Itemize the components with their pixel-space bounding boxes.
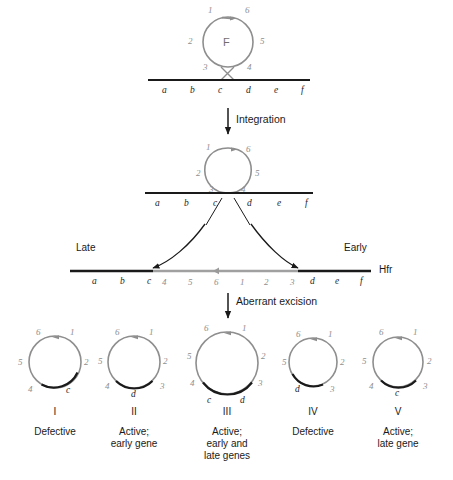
product-II-segment-3: 3 (160, 382, 165, 391)
product-IV-segment-2: 2 (340, 358, 345, 367)
hfr-transfer-direction-arrow (213, 268, 219, 275)
product-IV-roman: IV (268, 406, 358, 417)
top-chromosome-gene-e: e (274, 86, 278, 96)
product-V-segment-4: 4 (369, 382, 374, 391)
excision-curve-left (153, 224, 205, 268)
hfr-f-segment-3: 3 (290, 278, 295, 287)
product-II-segment-2: 2 (163, 357, 168, 366)
product-III-caption: Active; early and late genes (179, 426, 275, 462)
f-plasmid-center-label: F (223, 37, 230, 48)
f-factor-integration-diagram: 1 6 5 4 3 2 F a b c d e f Integration 1 … (0, 0, 453, 480)
product-circle-II (108, 335, 160, 388)
product-I-chromosome-arc (42, 373, 78, 388)
product-III-roman: III (182, 406, 272, 417)
hfr-gene-e: e (335, 277, 339, 287)
free-f-plasmid (148, 17, 310, 80)
integrated-loop-segment-1: 1 (206, 143, 211, 152)
product-II-roman: II (89, 406, 179, 417)
product-IV-segment-3: 3 (330, 385, 335, 394)
product-III-segment-2: 2 (261, 352, 266, 361)
integrated-loop-segment-2: 2 (196, 169, 201, 178)
product-II-segment-4: 4 (105, 382, 110, 391)
product-III-chromosome-arc (203, 383, 252, 395)
product-II-ring (108, 336, 160, 388)
product-I-roman: I (10, 406, 100, 417)
product-II-caption: Active; early gene (86, 426, 182, 450)
integrated-loop-segment-5: 5 (255, 169, 260, 178)
hfr-f-segment-6: 6 (214, 278, 219, 287)
integrated-f-loop (145, 148, 313, 225)
f-plasmid-segment-4: 4 (247, 63, 252, 72)
integrated-loop-segment-4: 4 (241, 185, 246, 194)
product-V-chromosome-arc (381, 381, 416, 388)
product-IV-segment-5: 5 (282, 358, 287, 367)
integrated-loop-segment-6: 6 (246, 145, 251, 154)
product-IV-gene-d: d (295, 385, 300, 395)
hfr-gene-f: f (360, 277, 363, 287)
hfr-f-segment-4: 4 (162, 278, 167, 287)
product-I-gene-c: c (66, 386, 70, 396)
f-plasmid-segment-6: 6 (245, 6, 250, 15)
product-V-segment-3: 3 (423, 382, 428, 391)
early-label: Early (344, 243, 367, 253)
product-V-roman: V (353, 406, 443, 417)
product-I-segment-1: 1 (70, 328, 75, 337)
hfr-gene-b: b (120, 277, 125, 287)
integration-step-label: Integration (236, 114, 286, 125)
excision-curve-right (251, 224, 298, 268)
integrated-gene-f: f (305, 199, 308, 209)
product-III-segment-6: 6 (204, 324, 209, 333)
f-plasmid-segment-2: 2 (188, 37, 193, 46)
product-III-segment-1: 1 (242, 324, 247, 333)
hfr-chromosome (70, 268, 371, 275)
product-V-gene-c: c (395, 389, 399, 399)
integrated-gene-e: e (277, 199, 281, 209)
product-III-gene-d: d (240, 396, 245, 406)
product-III-segment-4: 4 (190, 379, 195, 388)
product-circle-V (373, 336, 423, 387)
product-V-segment-2: 2 (427, 357, 432, 366)
hfr-f-segment-1: 1 (240, 278, 245, 287)
product-V-caption: Active; late gene (350, 426, 446, 450)
integrated-gene-c: c (213, 199, 217, 209)
top-chromosome-gene-b: b (190, 86, 195, 96)
product-II-segment-1: 1 (149, 328, 154, 337)
hfr-gene-a: a (92, 277, 97, 287)
aberrant-excision-step-label: Aberrant excision (236, 296, 317, 307)
product-II-segment-6: 6 (115, 328, 120, 337)
integrated-gene-b: b (184, 199, 189, 209)
product-I-segment-5: 5 (18, 358, 23, 367)
product-I-segment-2: 2 (84, 358, 89, 367)
integrated-gene-d: d (247, 199, 252, 209)
hfr-f-segment-5: 5 (188, 278, 193, 287)
top-chromosome-gene-d: d (246, 86, 251, 96)
top-chromosome-gene-f: f (301, 86, 304, 96)
hfr-f-segment-2: 2 (264, 278, 269, 287)
product-circle-III (196, 331, 258, 394)
hfr-gene-d: d (310, 277, 315, 287)
product-circle-I (29, 335, 81, 388)
hfr-label: Hfr (379, 265, 392, 275)
f-plasmid-segment-1: 1 (208, 6, 213, 15)
product-V-segment-1: 1 (413, 328, 418, 337)
crossover-x-icon (221, 67, 234, 80)
f-plasmid-segment-3: 3 (203, 63, 208, 72)
product-II-segment-5: 5 (98, 357, 103, 366)
f-plasmid-segment-5: 5 (260, 37, 265, 46)
product-V-segment-5: 5 (362, 357, 367, 366)
integrated-loop-segment-3: 3 (209, 185, 214, 194)
top-chromosome-gene-a: a (162, 86, 167, 96)
product-I-segment-6: 6 (36, 328, 41, 337)
product-III-segment-3: 3 (258, 379, 263, 388)
product-IV-segment-1: 1 (328, 330, 333, 339)
product-V-ring (373, 337, 423, 387)
product-IV-caption: Defective (265, 426, 361, 438)
product-IV-segment-6: 6 (296, 330, 301, 339)
top-chromosome-gene-c: c (218, 86, 222, 96)
product-III-gene-c: c (207, 396, 211, 406)
product-II-gene-d: d (131, 390, 136, 400)
product-III-segment-5: 5 (187, 352, 192, 361)
product-I-segment-4: 4 (28, 385, 33, 394)
late-label: Late (76, 243, 95, 253)
product-circle-IV (289, 337, 337, 386)
